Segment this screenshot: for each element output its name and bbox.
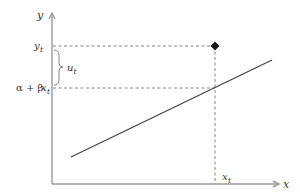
svg-text:t: t — [47, 87, 51, 96]
y-axis-label: y — [36, 9, 44, 22]
svg-text:t: t — [40, 45, 44, 54]
x-axis-label: x — [283, 178, 290, 191]
svg-text:u: u — [67, 62, 73, 73]
svg-text:t: t — [74, 67, 78, 76]
u-t-label: u t — [67, 62, 78, 76]
residual-brace-icon — [54, 50, 63, 85]
x-axis: x — [52, 178, 290, 191]
x-t-label: x t — [222, 171, 232, 185]
fitted-value-label: α + β x t — [16, 82, 51, 96]
observation-diamond-icon — [211, 42, 220, 51]
svg-text:y: y — [33, 40, 40, 51]
regression-line — [71, 60, 272, 157]
svg-text:α + β: α + β — [16, 82, 43, 93]
regression-residual-diagram: y x y t u t α + β x t x t — [0, 0, 300, 195]
y-axis: y — [36, 9, 55, 184]
y-t-label: y t — [33, 40, 44, 54]
